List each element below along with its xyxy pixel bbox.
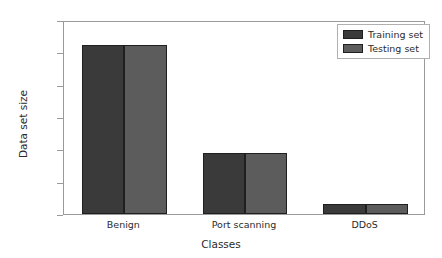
legend-swatch-icon [343, 30, 363, 39]
bar-chart-figure: Data set size 60000700008000090000100000… [0, 0, 442, 258]
bar-testing-set [124, 45, 166, 214]
legend-item: Training set [343, 29, 423, 40]
legend-label: Training set [368, 29, 423, 40]
bar-testing-set [366, 204, 408, 214]
y-axis-label: Data set size [17, 64, 29, 184]
x-axis-tick-label: DDoS [351, 219, 377, 230]
bar-training-set [203, 153, 245, 214]
bar-training-set [323, 204, 365, 214]
legend-label: Testing set [368, 43, 419, 54]
bar-group [203, 22, 287, 214]
legend-swatch-icon [343, 44, 363, 53]
x-axis-label: Classes [0, 238, 442, 250]
x-axis-tick-label: Benign [107, 219, 140, 230]
bar-training-set [82, 45, 124, 214]
legend-item: Testing set [343, 43, 423, 54]
chart-legend: Training setTesting set [337, 24, 430, 59]
x-axis-tick-label: Port scanning [212, 219, 277, 230]
bar-group [82, 22, 166, 214]
y-axis-tick-mark [57, 215, 63, 216]
bar-testing-set [245, 153, 287, 214]
